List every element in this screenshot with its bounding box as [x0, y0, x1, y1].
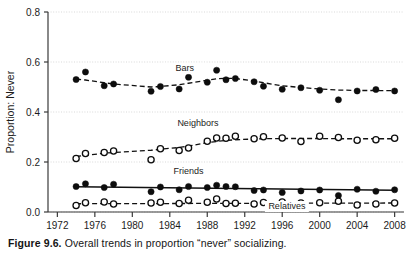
data-point-relatives: [335, 198, 341, 204]
x-tick-marks-group: [57, 212, 394, 217]
data-point-friends: [110, 181, 116, 187]
data-point-bars: [392, 88, 398, 94]
x-tick-label: 1976: [84, 220, 107, 231]
data-point-relatives: [392, 200, 398, 206]
data-point-neighbors: [354, 137, 360, 143]
x-tick-label: 2004: [346, 220, 369, 231]
series-label-bars: Bars: [176, 63, 195, 73]
trend-line-chart: 0.00.20.40.60.8 197219761980198419881992…: [0, 0, 412, 232]
data-point-friends: [176, 187, 182, 193]
data-point-friends: [251, 187, 257, 193]
data-point-neighbors: [392, 135, 398, 141]
data-point-friends: [279, 189, 285, 195]
series-label-friends: Friends: [174, 166, 205, 176]
data-point-bars: [176, 86, 182, 92]
y-tick-label: 0.8: [26, 7, 40, 18]
data-point-bars: [251, 79, 257, 85]
data-point-bars: [204, 79, 210, 85]
data-point-friends: [392, 187, 398, 193]
data-point-relatives: [101, 199, 107, 205]
data-point-bars: [335, 97, 341, 103]
x-tick-label: 1972: [46, 220, 69, 231]
data-point-neighbors: [110, 148, 116, 154]
data-point-neighbors: [204, 138, 210, 144]
series-label-neighbors: Neighbors: [177, 118, 219, 128]
data-point-neighbors: [298, 138, 304, 144]
data-point-friends: [260, 187, 266, 193]
figure-caption: Figure 9.6. Overall trends in proportion…: [8, 236, 408, 250]
data-point-relatives: [185, 197, 191, 203]
figure-caption-label: Figure 9.6.: [8, 237, 62, 249]
data-point-neighbors: [82, 150, 88, 156]
data-point-neighbors: [73, 155, 79, 161]
data-point-relatives: [176, 200, 182, 206]
trend-line-neighbors: [76, 139, 395, 157]
data-point-bars: [298, 85, 304, 91]
data-point-relatives: [232, 200, 238, 206]
y-axis-title-group: Proportion: Never: [4, 70, 16, 153]
data-point-neighbors: [232, 133, 238, 139]
data-point-neighbors: [279, 135, 285, 141]
data-point-bars: [110, 81, 116, 87]
data-point-relatives: [354, 202, 360, 208]
figure-container: 0.00.20.40.60.8 197219761980198419881992…: [0, 0, 412, 259]
data-point-bars: [354, 88, 360, 94]
y-tick-label: 0.4: [26, 107, 40, 118]
data-point-friends: [373, 188, 379, 194]
y-tick-labels-group: 0.00.20.40.60.8: [26, 7, 40, 218]
data-point-bars: [214, 67, 220, 73]
x-tick-label: 1984: [159, 220, 182, 231]
data-point-relatives: [148, 200, 154, 206]
figure-caption-text: Overall trends in proportion “never” soc…: [62, 237, 287, 249]
data-point-friends: [204, 184, 210, 190]
data-point-neighbors: [251, 136, 257, 142]
data-point-neighbors: [157, 146, 163, 152]
data-point-bars: [82, 69, 88, 75]
data-point-relatives: [251, 201, 257, 207]
data-point-friends: [157, 184, 163, 190]
data-point-neighbors: [176, 147, 182, 153]
data-point-relatives: [110, 201, 116, 207]
data-point-bars: [73, 76, 79, 82]
data-point-bars: [279, 86, 285, 92]
data-point-friends: [101, 184, 107, 190]
data-point-friends: [223, 183, 229, 189]
data-point-neighbors: [335, 134, 341, 140]
data-point-relatives: [317, 200, 323, 206]
data-point-neighbors: [373, 137, 379, 143]
data-point-relatives: [373, 201, 379, 207]
data-point-bars: [148, 88, 154, 94]
gridlines-group: [48, 12, 404, 212]
data-point-neighbors: [185, 145, 191, 151]
data-point-friends: [354, 186, 360, 192]
data-point-bars: [260, 83, 266, 89]
data-point-friends: [232, 184, 238, 190]
data-point-friends: [148, 189, 154, 195]
data-point-bars: [185, 74, 191, 80]
chart-plot-area: 0.00.20.40.60.8 197219761980198419881992…: [0, 0, 412, 232]
data-point-neighbors: [223, 135, 229, 141]
y-tick-label: 0.2: [26, 157, 40, 168]
data-point-bars: [157, 83, 163, 89]
data-point-relatives: [204, 199, 210, 205]
data-point-neighbors: [260, 134, 266, 140]
y-tick-label: 0.6: [26, 57, 40, 68]
data-point-bars: [317, 87, 323, 93]
data-point-neighbors: [214, 135, 220, 141]
data-point-bars: [101, 83, 107, 89]
x-tick-label: 2000: [309, 220, 332, 231]
data-point-friends: [317, 187, 323, 193]
data-point-bars: [373, 86, 379, 92]
x-tick-label: 1988: [196, 220, 219, 231]
data-point-relatives: [157, 199, 163, 205]
data-point-relatives: [223, 200, 229, 206]
data-point-friends: [298, 188, 304, 194]
y-tick-label: 0.0: [26, 207, 40, 218]
y-axis-title: Proportion: Never: [4, 70, 16, 153]
x-tick-label: 1980: [121, 220, 144, 231]
data-point-neighbors: [148, 157, 154, 163]
data-point-relatives: [82, 200, 88, 206]
data-point-relatives: [73, 202, 79, 208]
data-point-bars: [232, 75, 238, 81]
data-point-friends: [185, 183, 191, 189]
